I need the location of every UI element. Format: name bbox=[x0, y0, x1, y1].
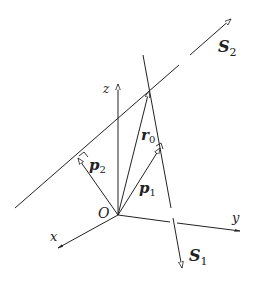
x-axis-label: x bbox=[50, 229, 58, 244]
r0-label: r0 bbox=[141, 126, 155, 145]
line-s2 bbox=[15, 19, 231, 208]
line-s1 bbox=[143, 55, 182, 268]
y-axis-label: y bbox=[231, 210, 240, 225]
s2-label: S2 bbox=[218, 37, 237, 59]
skew-lines-diagram: z y x O S2 S1 r0 p2 p1 bbox=[0, 0, 256, 281]
origin-label: O bbox=[98, 205, 110, 221]
z-axis-label: z bbox=[102, 82, 110, 96]
right-angle-mark-p2 bbox=[79, 152, 88, 157]
s1-label: S1 bbox=[189, 246, 208, 268]
y-axis bbox=[118, 215, 240, 231]
p2-label: p2 bbox=[89, 156, 106, 175]
p1-label: p1 bbox=[139, 179, 156, 198]
